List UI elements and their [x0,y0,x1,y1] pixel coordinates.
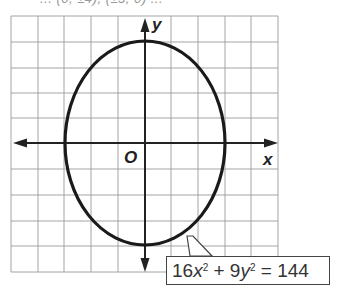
eq-var-y: y [240,260,250,281]
x-axis-right-arrow-icon [264,139,278,148]
eq-var-x: x [193,260,203,281]
x-axis-label: x [262,150,274,169]
eq-equals: = [256,260,278,281]
y-axis-up-arrow-icon [141,18,150,32]
x-axis-left-arrow-icon [13,139,27,148]
coordinate-graph: y x O [0,0,346,295]
eq-coef-x: 16 [172,260,193,281]
equation-label: 16x2 + 9y2 = 144 [166,256,330,285]
eq-coef-y: 9 [230,260,241,281]
y-axis-down-arrow-icon [141,258,150,272]
eq-plus: + [208,260,230,281]
eq-exp-y: 2 [250,262,256,273]
y-axis-label: y [151,15,163,34]
eq-rhs: 144 [277,260,309,281]
eq-exp-x: 2 [203,262,209,273]
origin-label: O [124,148,137,167]
